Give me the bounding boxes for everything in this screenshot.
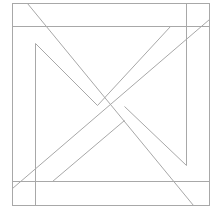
inner-left-diagonal <box>36 44 98 106</box>
inner-bottom-diagonal <box>53 121 125 182</box>
diagram-lines <box>13 4 210 206</box>
main-diagonal-ascending <box>13 20 210 189</box>
inner-right-diagonal <box>125 107 187 166</box>
inner-top-diagonal <box>98 27 171 106</box>
pinwheel-diagram <box>0 0 224 214</box>
